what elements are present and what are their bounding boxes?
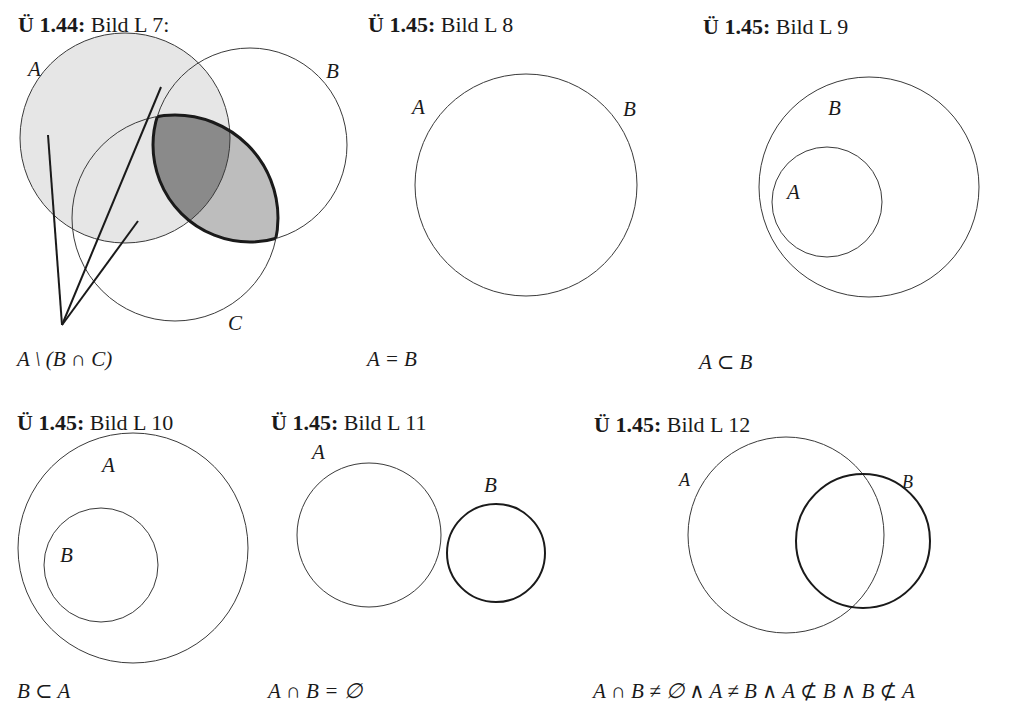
caption-l12: A ∩ B ≠ ∅ ∧ A ≠ B ∧ A ⊄ B ∧ B ⊄ A <box>593 681 915 702</box>
set-a-b-outline <box>415 74 637 296</box>
label-b: B <box>484 473 497 497</box>
set-a-outline <box>688 437 884 633</box>
caption-l7: A \ (B ∩ C) <box>17 349 112 370</box>
label-b: B <box>60 543 73 567</box>
set-b-outline <box>447 504 545 602</box>
venn-l12: A B <box>678 437 930 633</box>
venn-l8: A B <box>410 74 637 296</box>
label-b: B <box>902 472 913 492</box>
label-b: B <box>828 96 841 120</box>
label-a: A <box>26 57 41 81</box>
label-a: A <box>310 440 325 464</box>
label-a: A <box>678 470 691 490</box>
set-a-outline <box>18 433 248 663</box>
label-a: A <box>100 453 115 477</box>
label-b: B <box>623 97 636 121</box>
venn-l7: A B C <box>20 33 347 335</box>
caption-l10: B ⊂ A <box>17 681 70 702</box>
caption-l8: A = B <box>367 349 417 370</box>
set-b-outline <box>796 474 930 608</box>
label-b: B <box>326 59 339 83</box>
set-a-outline <box>297 463 441 607</box>
label-a: A <box>785 180 800 204</box>
caption-l11: A ∩ B = ∅ <box>268 681 362 702</box>
caption-l9: A ⊂ B <box>699 352 752 373</box>
venn-diagrams-canvas: A B C A B B A A B A B A B <box>0 0 1012 721</box>
label-c: C <box>228 311 243 335</box>
venn-l9: B A <box>759 77 979 297</box>
venn-l10: A B <box>18 433 248 663</box>
label-a: A <box>410 95 425 119</box>
venn-l11: A B <box>297 440 545 607</box>
